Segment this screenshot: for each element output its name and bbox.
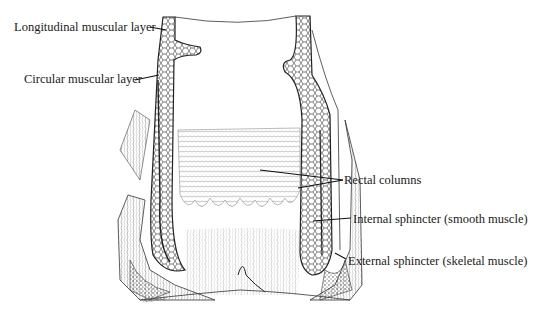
label-internal-sphincter: Internal sphincter (smooth muscle) — [353, 212, 528, 226]
label-longitudinal-muscular-layer: Longitudinal muscular layer — [14, 20, 156, 34]
rectal-opening — [175, 16, 296, 22]
rectum-anatomy-illustration — [0, 0, 535, 316]
label-external-sphincter: External sphincter (skeletal muscle) — [348, 254, 527, 268]
label-rectal-columns: Rectal columns — [344, 173, 421, 187]
label-circular-muscular-layer: Circular muscular layer — [24, 72, 142, 86]
rectal-columns — [178, 128, 300, 207]
